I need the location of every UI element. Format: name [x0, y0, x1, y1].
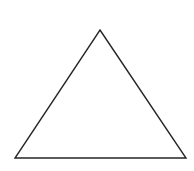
triangle-figure: [0, 0, 194, 171]
figure-canvas: [0, 0, 194, 171]
triangle-outline: [15, 30, 186, 158]
